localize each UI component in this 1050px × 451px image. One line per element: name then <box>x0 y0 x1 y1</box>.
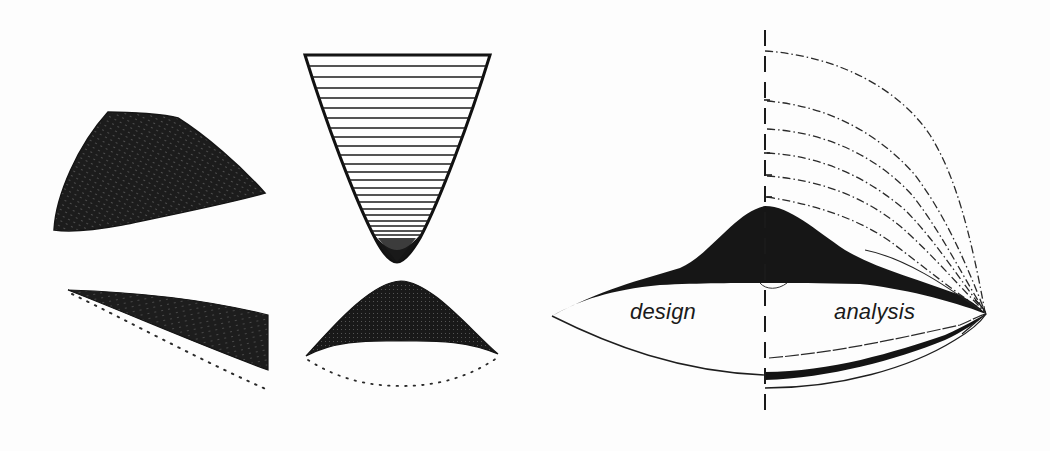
design-label: design <box>630 299 696 325</box>
center-funnel <box>300 55 495 262</box>
center-dome <box>306 281 498 386</box>
right-lens-diagram <box>552 30 986 417</box>
left-top-surface <box>54 112 265 231</box>
figure-graphics <box>0 0 1050 451</box>
left-bottom-wedge <box>68 290 268 390</box>
analysis-label: analysis <box>834 299 915 325</box>
figure: design analysis <box>0 0 1050 451</box>
